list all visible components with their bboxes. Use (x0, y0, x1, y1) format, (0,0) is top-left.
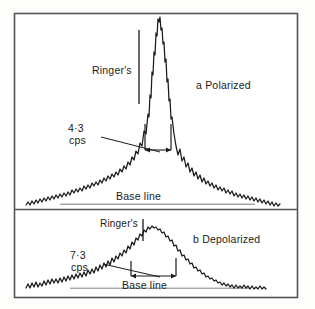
linewidth-value-a: 4·3 (68, 122, 84, 134)
ringers-label-a: Ringer's (92, 64, 132, 76)
linewidth-value-b: 7·3 (70, 249, 86, 261)
panel-b-caption: b Depolarized (193, 233, 260, 245)
baseline-label-b: Base line (122, 279, 167, 291)
panel-a-caption: a Polarized (196, 79, 251, 91)
ringers-label-b: Ringer's (100, 218, 138, 229)
baseline-label-a: Base line (116, 190, 161, 202)
linewidth-unit-b: cps (71, 261, 88, 273)
figure-frame (15, 14, 298, 298)
linewidth-unit-a: cps (69, 134, 86, 146)
spectra-figure (0, 0, 315, 309)
